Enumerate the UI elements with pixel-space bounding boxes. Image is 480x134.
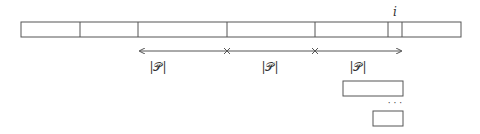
index-label: i xyxy=(393,5,397,19)
ellipsis: · · · xyxy=(388,98,402,108)
diagram-canvas: i |𝒫| |𝒫| |𝒫| · · · xyxy=(0,0,480,134)
stack-box xyxy=(343,81,403,96)
stack-box xyxy=(373,111,403,126)
array-bar xyxy=(21,22,461,37)
segment-label: |𝒫| xyxy=(349,60,366,74)
segment-label: |𝒫| xyxy=(261,60,278,74)
span-arrow xyxy=(140,48,401,54)
segment-label: |𝒫| xyxy=(149,60,166,74)
